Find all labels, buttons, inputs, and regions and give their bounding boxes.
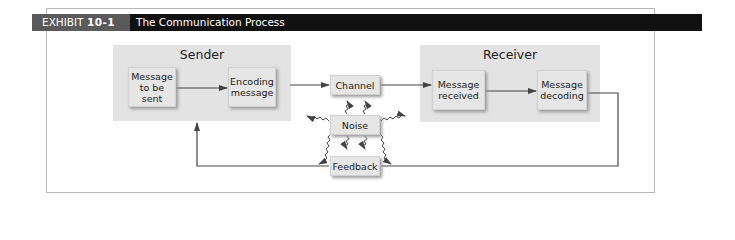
message-to-be-sent-text: Message to be sent (129, 71, 175, 104)
feedback-text: Feedback (332, 161, 377, 172)
channel-text: Channel (335, 80, 374, 91)
message-received-text: Message received (433, 79, 484, 101)
noise-box: Noise (330, 115, 380, 135)
channel-box: Channel (330, 75, 380, 95)
encoding-message-text: Encoding message (229, 76, 275, 98)
message-decoding-box: Message decoding (537, 70, 587, 110)
message-to-be-sent-box: Message to be sent (128, 67, 176, 107)
message-decoding-text: Message decoding (538, 79, 586, 101)
message-received-box: Message received (432, 70, 485, 110)
noise-text: Noise (342, 120, 368, 131)
encoding-message-box: Encoding message (228, 67, 276, 107)
feedback-box: Feedback (330, 156, 380, 176)
